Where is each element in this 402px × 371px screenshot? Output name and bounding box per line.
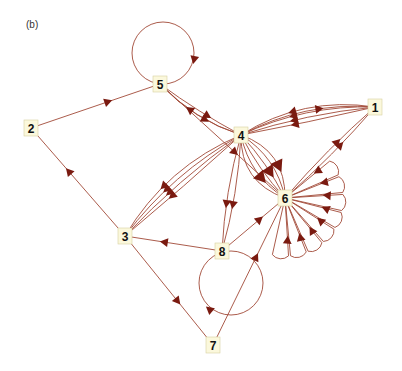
arrowhead-icon bbox=[66, 168, 75, 177]
arrowhead-icon bbox=[323, 191, 331, 200]
arrowhead-icon bbox=[206, 306, 215, 314]
self-loop-edge bbox=[132, 22, 194, 84]
node-label: 8 bbox=[219, 245, 226, 259]
node-label: 5 bbox=[157, 78, 164, 92]
graph-node-2[interactable]: 2 bbox=[24, 120, 38, 136]
graph-edge bbox=[125, 135, 241, 236]
graph-node-7[interactable]: 7 bbox=[206, 337, 220, 353]
arrowhead-icon bbox=[322, 206, 331, 214]
self-loop-edge bbox=[199, 251, 263, 315]
graph-node-5[interactable]: 5 bbox=[153, 76, 167, 92]
arrowhead-icon bbox=[254, 217, 263, 226]
arrowhead-icon bbox=[190, 55, 199, 64]
graph-node-3[interactable]: 3 bbox=[118, 228, 132, 244]
graph-edge bbox=[160, 84, 241, 135]
graph-node-6[interactable]: 6 bbox=[278, 190, 292, 206]
arrowhead-icon bbox=[172, 296, 180, 305]
graph-edge bbox=[285, 107, 375, 198]
node-label: 1 bbox=[372, 101, 379, 115]
arrowhead-icon bbox=[223, 200, 232, 209]
node-label: 6 bbox=[282, 192, 289, 206]
arrowhead-icon bbox=[314, 166, 323, 174]
node-label: 4 bbox=[238, 129, 245, 143]
arrowhead-icon bbox=[309, 227, 317, 236]
arrowheads-layer bbox=[66, 55, 343, 315]
graph-node-1[interactable]: 1 bbox=[368, 99, 382, 115]
graph-edge bbox=[285, 107, 375, 198]
self-loop-edge bbox=[285, 198, 342, 227]
graph-edge bbox=[31, 128, 125, 236]
graph-node-8[interactable]: 8 bbox=[215, 243, 229, 259]
arrowhead-icon bbox=[288, 106, 297, 114]
node-label: 3 bbox=[122, 230, 129, 244]
node-label: 7 bbox=[210, 339, 217, 353]
arrowhead-icon bbox=[186, 107, 195, 115]
arrowhead-icon bbox=[160, 238, 169, 247]
graph-edge bbox=[31, 84, 160, 128]
node-label: 2 bbox=[28, 122, 35, 136]
directed-graph: 12345678 bbox=[0, 0, 402, 371]
arrowhead-icon bbox=[317, 218, 326, 227]
graph-node-4[interactable]: 4 bbox=[234, 127, 248, 143]
graph-edge bbox=[213, 198, 285, 345]
graph-edge bbox=[160, 84, 241, 135]
arrowhead-icon bbox=[283, 236, 292, 244]
graph-edge bbox=[241, 106, 375, 135]
graph-edge bbox=[160, 84, 241, 135]
graph-edge bbox=[125, 236, 222, 251]
graph-edge bbox=[160, 84, 285, 198]
